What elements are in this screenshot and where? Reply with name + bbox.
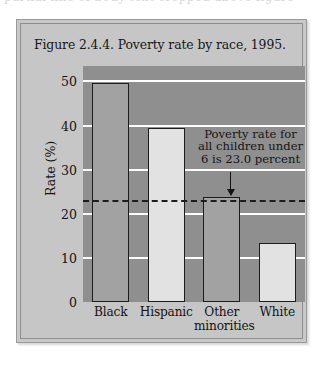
x-axis-tick-line: minorities <box>194 319 250 333</box>
annotation-arrow-icon <box>230 172 231 195</box>
x-axis-tick-black: Black <box>83 305 139 319</box>
scan-top-cutoff-text-value: partial line of body text cropped above … <box>4 0 294 4</box>
x-axis-tick-line: Black <box>83 305 139 319</box>
y-axis-label: Rate (%) <box>43 141 58 196</box>
y-axis-tick-50: 50 <box>61 74 77 89</box>
y-axis-tick-40: 40 <box>61 118 77 133</box>
y-axis-tick-30: 30 <box>61 162 77 177</box>
gridline-50 <box>83 80 305 82</box>
bar-hispanic <box>148 128 185 302</box>
bar-other-minorities <box>203 197 240 302</box>
x-axis-tick-hispanic: Hispanic <box>139 305 195 319</box>
figure-frame-inner-border: Figure 2.4.4. Poverty rate by race, 1995… <box>20 23 303 339</box>
chart-plot-area: 01020304050BlackHispanicOtherminoritiesW… <box>83 66 305 302</box>
reference-line-annotation: Poverty rate forall children under6 is 2… <box>198 128 303 166</box>
bar-black <box>92 83 129 302</box>
chart-plot-wrapper: Rate (%) 01020304050BlackHispanicOthermi… <box>21 24 302 338</box>
x-axis-tick-line: Hispanic <box>139 305 195 319</box>
reference-line-average <box>83 200 305 202</box>
x-axis-tick-other-minorities: Otherminorities <box>194 305 250 333</box>
scan-top-cutoff-text: partial line of body text cropped above … <box>0 0 329 13</box>
y-axis-tick-20: 20 <box>61 206 77 221</box>
figure-frame: Figure 2.4.4. Poverty rate by race, 1995… <box>16 19 307 343</box>
x-axis-tick-white: White <box>250 305 306 319</box>
x-axis-tick-line: Other <box>194 305 250 319</box>
annotation-line: 6 is 23.0 percent <box>198 153 303 166</box>
x-axis-tick-line: White <box>250 305 306 319</box>
y-axis-tick-0: 0 <box>69 295 77 310</box>
bar-white <box>259 243 296 302</box>
y-axis-tick-10: 10 <box>61 250 77 265</box>
